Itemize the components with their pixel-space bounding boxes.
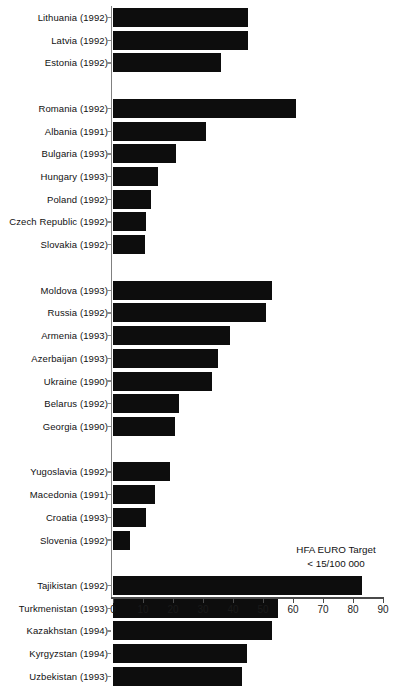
y-axis-tick [106,176,111,177]
bar [113,462,170,481]
bar-row: Georgia (1990) [0,417,395,436]
x-axis-tick-label: 90 [363,604,395,615]
bar [113,394,179,413]
bar [113,667,242,686]
y-axis-tick [106,17,111,18]
bar-row: Macedonia (1991) [0,485,395,504]
y-axis-tick [106,62,111,63]
bar-row: Russia (1992) [0,303,395,322]
bar [113,99,296,118]
bar [113,644,247,663]
bar-category-label: Lithuania (1992) [0,8,108,27]
bar-row: Croatia (1993) [0,508,395,527]
bar [113,53,221,72]
bar-row: Ukraine (1990) [0,372,395,391]
hfa-target-line1: HFA EURO Target [280,543,392,557]
bar-category-label: Macedonia (1991) [0,485,108,504]
bar-row: Albania (1991) [0,122,395,141]
bar-row: Hungary (1993) [0,167,395,186]
bar-category-label: Poland (1992) [0,190,108,209]
bar-category-label: Romania (1992) [0,99,108,118]
bar-category-label: Azerbaijan (1993) [0,349,108,368]
bar [113,167,158,186]
y-axis-tick [106,517,111,518]
bar-category-label: Uzbekistan (1993) [0,667,108,686]
bar-category-label: Kazakhstan (1994) [0,621,108,640]
y-axis-tick [106,471,111,472]
bar [113,190,151,209]
y-axis-tick [106,199,111,200]
y-axis-tick [106,40,111,41]
bar-category-label: Belarus (1992) [0,394,108,413]
bar-row: Bulgaria (1993) [0,144,395,163]
x-axis-tick [383,598,384,603]
y-axis-tick [106,221,111,222]
x-axis-tick [233,598,234,603]
y-axis-tick [106,153,111,154]
y-axis-tick [106,585,111,586]
y-axis-tick [106,380,111,381]
bar [113,576,362,595]
bar-category-label: Slovakia (1992) [0,235,108,254]
bar-category-label: Tajikistan (1992) [0,576,108,595]
bar-row: Estonia (1992) [0,53,395,72]
bar-category-label: Slovenia (1992) [0,531,108,550]
y-axis-tick [106,608,111,609]
bar [113,281,272,300]
bar-category-label: Kyrgyzstan (1994) [0,644,108,663]
x-axis-tick [113,598,114,603]
bar-row: Moldova (1993) [0,281,395,300]
bar [113,235,145,254]
x-axis-tick [203,598,204,603]
bar-category-label: Albania (1991) [0,122,108,141]
bar-category-label: Armenia (1993) [0,326,108,345]
bar-row: Kyrgyzstan (1994) [0,644,395,663]
y-axis-tick [106,312,111,313]
bar-category-label: Moldova (1993) [0,281,108,300]
y-axis-tick [106,244,111,245]
bar [113,122,206,141]
y-axis-tick [106,539,111,540]
bar-row: Uzbekistan (1993) [0,667,395,686]
y-axis-tick [106,358,111,359]
y-axis-tick [106,335,111,336]
bar-row: Czech Republic (1992) [0,212,395,231]
x-axis-tick [353,598,354,603]
bar-row: Tajikistan (1992) [0,576,395,595]
bar [113,417,175,436]
bar [113,508,146,527]
bar-row: Romania (1992) [0,99,395,118]
y-axis-tick [106,131,111,132]
bar-row: Poland (1992) [0,190,395,209]
bar [113,212,146,231]
bar [113,326,230,345]
bar-category-label: Czech Republic (1992) [0,212,108,231]
bar-row: Azerbaijan (1993) [0,349,395,368]
bar-row: Latvia (1992) [0,31,395,50]
y-axis-tick [106,290,111,291]
bar-category-label: Turkmenistan (1993) [0,599,108,618]
bar-row: Belarus (1992) [0,394,395,413]
bar [113,531,130,550]
bar-category-label: Yugoslavia (1992) [0,462,108,481]
bar [113,8,248,27]
bar-row: Lithuania (1992) [0,8,395,27]
bar [113,349,218,368]
bar-category-label: Latvia (1992) [0,31,108,50]
bar [113,31,248,50]
y-axis-tick [106,494,111,495]
bar-category-label: Hungary (1993) [0,167,108,186]
y-axis-tick [106,108,111,109]
bar-row: Kazakhstan (1994) [0,621,395,640]
y-axis-tick [106,653,111,654]
x-axis-tick [293,598,294,603]
bar [113,621,272,640]
bar-row: Armenia (1993) [0,326,395,345]
y-axis-tick [106,676,111,677]
x-axis-tick [173,598,174,603]
bar-category-label: Ukraine (1990) [0,372,108,391]
bar [113,485,155,504]
bar [113,372,212,391]
bar-category-label: Croatia (1993) [0,508,108,527]
